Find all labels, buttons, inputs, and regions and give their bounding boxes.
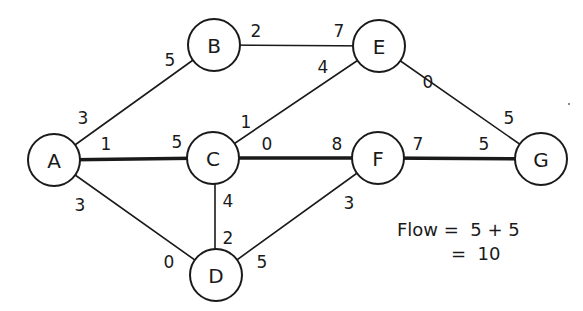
edge-c-e xyxy=(213,46,379,158)
edge-a-b xyxy=(54,45,214,160)
label-cd-near-c: 4 xyxy=(223,191,234,211)
edges xyxy=(54,45,541,275)
label-eg-near-e: 0 xyxy=(423,72,434,92)
label-ad-near-d: 0 xyxy=(164,252,175,272)
node-f: F xyxy=(352,132,404,184)
flow-network-diagram: A B C D E F G 3 5 1 5 3 xyxy=(0,0,583,311)
label-df-near-f: 3 xyxy=(344,193,355,213)
label-cd-near-d: 2 xyxy=(223,228,234,248)
label-eg-near-g: 5 xyxy=(504,108,515,128)
label-ab-near-b: 5 xyxy=(165,50,176,70)
edge-a-d xyxy=(54,160,216,275)
node-b-label: B xyxy=(207,34,221,58)
node-g: G xyxy=(515,133,567,185)
label-ac-near-a: 1 xyxy=(101,134,112,154)
node-f-label: F xyxy=(372,147,384,171)
label-be-near-e: 7 xyxy=(334,21,345,41)
node-a-label: A xyxy=(47,149,61,173)
label-df-near-d: 5 xyxy=(257,252,268,272)
node-d: D xyxy=(190,249,242,301)
edge-e-g xyxy=(379,46,541,159)
node-b: B xyxy=(188,19,240,71)
scan-speck xyxy=(568,103,570,105)
label-cf-near-f: 8 xyxy=(332,134,343,154)
edge-d-f xyxy=(216,158,378,275)
label-fg-near-f: 7 xyxy=(413,134,424,154)
flow-equation-line2: = 10 xyxy=(451,243,500,264)
flow-annotation: Flow = 5 + 5 = 10 xyxy=(397,219,520,264)
node-g-label: G xyxy=(533,148,549,172)
label-ce-near-e: 4 xyxy=(318,57,329,77)
label-be-near-b: 2 xyxy=(251,21,262,41)
label-ad-near-a: 3 xyxy=(75,195,86,215)
label-cf-near-c: 0 xyxy=(262,134,273,154)
label-fg-near-g: 5 xyxy=(479,134,490,154)
node-a: A xyxy=(28,134,80,186)
node-c: C xyxy=(187,132,239,184)
node-e: E xyxy=(353,20,405,72)
node-c-label: C xyxy=(206,147,220,171)
flow-equation-line1: Flow = 5 + 5 xyxy=(397,219,520,240)
label-ce-near-c: 1 xyxy=(241,112,252,132)
label-ab-near-a: 3 xyxy=(78,108,89,128)
node-e-label: E xyxy=(373,35,386,59)
label-ac-near-c: 5 xyxy=(172,132,183,152)
node-d-label: D xyxy=(208,264,223,288)
